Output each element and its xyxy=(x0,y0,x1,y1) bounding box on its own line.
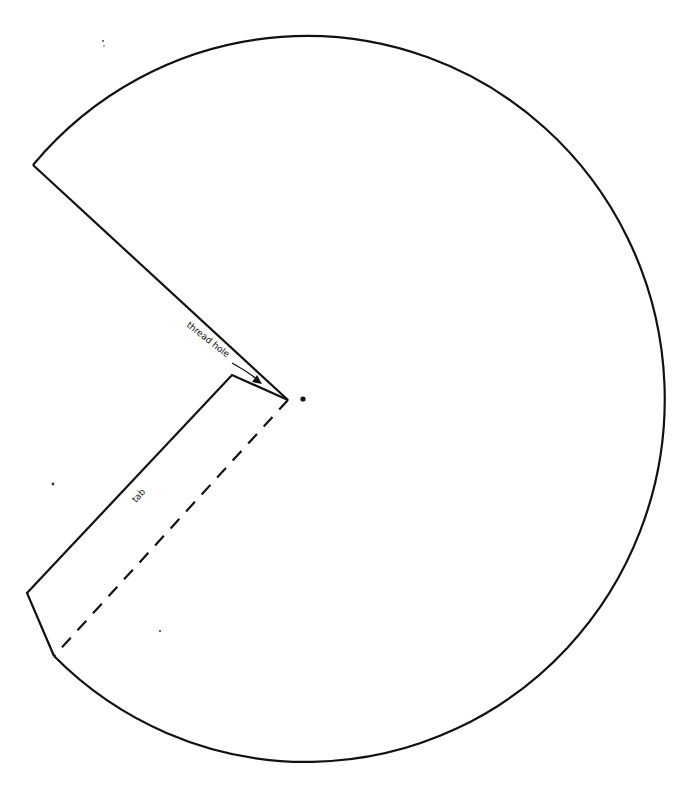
circle-outline-arc xyxy=(33,36,665,762)
thread-hole-dot xyxy=(300,396,305,401)
speck xyxy=(52,483,55,486)
upper-radial-edge xyxy=(33,165,288,400)
tab-label: tab xyxy=(130,486,147,504)
tab-outline xyxy=(27,375,288,656)
speck xyxy=(159,630,161,632)
speck xyxy=(103,45,104,46)
speck xyxy=(102,40,104,42)
cone-template-diagram: thread hole tab xyxy=(0,0,684,790)
